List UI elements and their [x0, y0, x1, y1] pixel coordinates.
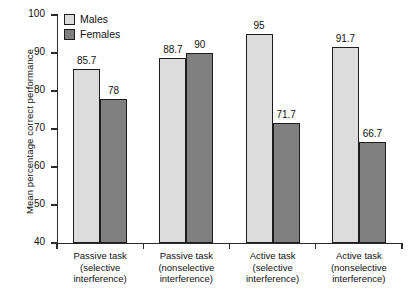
bar-value-label: 85.7 — [65, 55, 108, 66]
y-tick-mark — [51, 166, 57, 167]
x-tick-mark — [401, 243, 402, 249]
x-axis-group-label: Passive task(selectiveinterference) — [57, 250, 143, 285]
x-axis-group-label-line: (nonselective — [316, 262, 402, 274]
x-tick-mark — [315, 243, 316, 249]
bar-value-label: 90 — [178, 39, 221, 50]
y-tick-label: 80 — [1, 84, 45, 95]
x-axis-group-label: Active task(nonselectiveinterference) — [316, 250, 402, 285]
legend-swatch-females-icon — [64, 29, 75, 40]
y-tick-label: 60 — [1, 160, 45, 171]
x-axis-group-label-line: (nonselective — [143, 262, 229, 274]
y-tick-label: 70 — [1, 122, 45, 133]
y-tick-mark — [51, 90, 57, 91]
y-tick-label: 100 — [1, 8, 45, 19]
legend-item-females: Females — [64, 27, 120, 41]
bar-females-group-3 — [273, 123, 300, 243]
y-tick-mark — [51, 52, 57, 53]
bar-males-group-2 — [159, 58, 186, 243]
legend: Males Females — [64, 12, 120, 42]
bar-males-group-3 — [246, 34, 273, 243]
x-axis-group-label-line: interference) — [316, 273, 402, 285]
y-tick-label: 90 — [1, 46, 45, 57]
x-axis-group-label-line: (selective — [57, 262, 143, 274]
y-tick-label: 50 — [1, 198, 45, 209]
x-axis-group-label: Passive task(nonselectiveinterference) — [143, 250, 229, 285]
y-axis-line — [57, 14, 58, 244]
bar-females-group-2 — [186, 53, 213, 243]
bar-males-group-4 — [332, 47, 359, 243]
x-axis-group-label-line: Passive task — [57, 250, 143, 262]
y-tick-mark — [51, 204, 57, 205]
y-tick-mark — [51, 128, 57, 129]
x-axis-group-label-line: Active task — [316, 250, 402, 262]
x-axis-group-label-line: interference) — [57, 273, 143, 285]
bar-value-label: 78 — [92, 85, 135, 96]
x-axis-group-label-line: Passive task — [143, 250, 229, 262]
legend-swatch-males-icon — [64, 14, 75, 25]
bar-value-label: 91.7 — [324, 33, 367, 44]
y-tick-label: 40 — [1, 236, 45, 247]
bar-value-label: 71.7 — [265, 109, 308, 120]
x-tick-mark — [56, 243, 57, 249]
x-tick-mark — [229, 243, 230, 249]
bar-females-group-1 — [100, 99, 127, 243]
legend-label-females: Females — [80, 28, 120, 40]
bar-females-group-4 — [359, 142, 386, 243]
bar-value-label: 66.7 — [351, 128, 394, 139]
y-tick-mark — [51, 14, 57, 15]
x-axis-group-label: Active task(selectiveinterference) — [230, 250, 316, 285]
legend-label-males: Males — [80, 13, 108, 25]
x-axis-group-label-line: interference) — [230, 273, 316, 285]
x-axis-group-label-line: Active task — [230, 250, 316, 262]
bar-value-label: 95 — [238, 20, 281, 31]
x-tick-mark — [143, 243, 144, 249]
x-axis-group-label-line: (selective — [230, 262, 316, 274]
legend-item-males: Males — [64, 12, 120, 26]
bar-chart: Mean percentage correct performance 1009… — [0, 0, 417, 297]
x-axis-group-label-line: interference) — [143, 273, 229, 285]
